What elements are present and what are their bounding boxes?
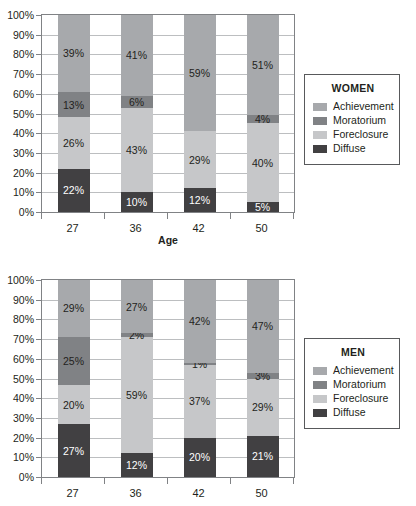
x-axis-tick-label: 50 xyxy=(232,487,292,499)
legend-item-moratorium[interactable]: Moratorium xyxy=(313,378,393,391)
stacked-bar[interactable]: 20%37%1%42% xyxy=(184,280,216,477)
swatch-moratorium-icon xyxy=(313,381,327,389)
y-axis-tick-label: 50% xyxy=(0,374,34,384)
bar-segment-value-label: 41% xyxy=(121,50,153,61)
bar-segment-value-label: 51% xyxy=(247,60,279,71)
bar-segment-diffuse[interactable]: 12% xyxy=(184,188,216,212)
bar-segment-foreclosure[interactable]: 40% xyxy=(247,123,279,202)
legend-item-foreclosure[interactable]: Foreclosure xyxy=(313,392,393,405)
x-axis-title: Age xyxy=(41,234,295,246)
bar-segment-value-label: 10% xyxy=(121,197,153,208)
bar-segment-foreclosure[interactable]: 37% xyxy=(184,365,216,438)
x-axis-tick xyxy=(104,213,105,219)
bar-segment-achievement[interactable]: 39% xyxy=(58,15,90,92)
legend-label-moratorium: Moratorium xyxy=(333,378,386,391)
y-axis-tick-label: 90% xyxy=(0,30,34,40)
x-axis-tick xyxy=(41,213,42,219)
x-axis-tick-label: 42 xyxy=(169,487,229,499)
x-axis-tick-label: 27 xyxy=(43,222,103,234)
bar-segment-achievement[interactable]: 47% xyxy=(247,280,279,373)
swatch-foreclosure-icon xyxy=(313,131,327,139)
y-axis-tick-label: 100% xyxy=(0,10,34,20)
bar-segment-diffuse[interactable]: 20% xyxy=(184,438,216,477)
bar-segment-moratorium[interactable]: 4% xyxy=(247,115,279,123)
y-axis-tick-label: 0% xyxy=(0,472,34,482)
y-axis-tick-label: 20% xyxy=(0,168,34,178)
bar-segment-diffuse[interactable]: 5% xyxy=(247,202,279,212)
bar-segment-value-label: 59% xyxy=(121,390,153,401)
stacked-bar[interactable]: 12%29%59% xyxy=(184,15,216,212)
legend-item-achievement[interactable]: Achievement xyxy=(313,100,393,113)
bar-segment-value-label: 5% xyxy=(247,202,279,213)
x-axis-tick xyxy=(293,478,294,484)
legend-item-foreclosure[interactable]: Foreclosure xyxy=(313,128,393,141)
stacked-bar[interactable]: 10%43%6%41% xyxy=(121,15,153,212)
bar-segment-value-label: 20% xyxy=(184,452,216,463)
x-axis-tick xyxy=(104,478,105,484)
y-axis-tick-label: 40% xyxy=(0,128,34,138)
bar-segment-moratorium[interactable]: 13% xyxy=(58,92,90,118)
stacked-bar[interactable]: 27%20%25%29% xyxy=(58,280,90,477)
legend-item-moratorium[interactable]: Moratorium xyxy=(313,114,393,127)
y-axis-tick-label: 10% xyxy=(0,187,34,197)
legend-label-diffuse: Diffuse xyxy=(333,142,366,155)
stacked-bar[interactable]: 22%26%13%39% xyxy=(58,15,90,212)
bar-segment-foreclosure[interactable]: 43% xyxy=(121,108,153,193)
swatch-moratorium-icon xyxy=(313,117,327,125)
bar-segment-diffuse[interactable]: 21% xyxy=(247,436,279,477)
legend-item-diffuse[interactable]: Diffuse xyxy=(313,142,393,155)
bar-segment-achievement[interactable]: 59% xyxy=(184,15,216,131)
bar-segment-diffuse[interactable]: 22% xyxy=(58,169,90,212)
bar-segment-foreclosure[interactable]: 20% xyxy=(58,385,90,424)
y-axis-tick-label: 60% xyxy=(0,354,34,364)
bar-segment-achievement[interactable]: 29% xyxy=(58,280,90,337)
bar-segment-value-label: 26% xyxy=(58,138,90,149)
bar-segment-value-label: 39% xyxy=(58,48,90,59)
y-axis-tick-label: 30% xyxy=(0,148,34,158)
bar-segment-moratorium[interactable]: 2% xyxy=(121,333,153,337)
x-axis-tick xyxy=(167,213,168,219)
bar-segment-diffuse[interactable]: 10% xyxy=(121,192,153,212)
bar-segment-moratorium[interactable]: 1% xyxy=(184,363,216,365)
bar-segment-diffuse[interactable]: 27% xyxy=(58,424,90,477)
stacked-bar[interactable]: 5%40%4%51% xyxy=(247,15,279,212)
bar-segment-achievement[interactable]: 42% xyxy=(184,280,216,363)
y-axis-tick-label: 90% xyxy=(0,295,34,305)
men-legend-title: MEN xyxy=(313,346,393,358)
bar-segment-value-label: 37% xyxy=(184,396,216,407)
bar-segment-foreclosure[interactable]: 29% xyxy=(247,379,279,436)
bar-segment-moratorium[interactable]: 6% xyxy=(121,96,153,108)
bar-segment-value-label: 40% xyxy=(247,157,279,168)
bar-segment-foreclosure[interactable]: 59% xyxy=(121,337,153,453)
bar-segment-diffuse[interactable]: 12% xyxy=(121,453,153,477)
bar-segment-achievement[interactable]: 27% xyxy=(121,280,153,333)
x-axis-tick xyxy=(230,213,231,219)
swatch-achievement-icon xyxy=(313,103,327,111)
stacked-bar[interactable]: 21%29%3%47% xyxy=(247,280,279,477)
y-axis-tick-label: 30% xyxy=(0,413,34,423)
bar-segment-value-label: 25% xyxy=(58,355,90,366)
bar-segment-achievement[interactable]: 51% xyxy=(247,15,279,115)
bar-segment-achievement[interactable]: 41% xyxy=(121,15,153,96)
x-axis-tick-label: 36 xyxy=(106,487,166,499)
x-axis-tick-label: 36 xyxy=(106,222,166,234)
legend-item-diffuse[interactable]: Diffuse xyxy=(313,406,393,419)
bar-segment-value-label: 12% xyxy=(121,460,153,471)
bar-segment-value-label: 21% xyxy=(247,451,279,462)
bar-segment-value-label: 27% xyxy=(121,301,153,312)
bar-segment-value-label: 12% xyxy=(184,195,216,206)
bar-segment-value-label: 29% xyxy=(247,402,279,413)
bar-segment-moratorium[interactable]: 25% xyxy=(58,337,90,386)
men-chart: 100%90%80%70%60%50%40%30%20%10%0% 27%20%… xyxy=(0,265,416,506)
legend-item-achievement[interactable]: Achievement xyxy=(313,364,393,377)
bar-segment-foreclosure[interactable]: 29% xyxy=(184,131,216,188)
bar-segment-moratorium[interactable]: 3% xyxy=(247,373,279,379)
legend-label-achievement: Achievement xyxy=(333,100,394,113)
y-axis-tick-label: 10% xyxy=(0,452,34,462)
x-axis-tick-label: 50 xyxy=(232,222,292,234)
women-y-axis: 100%90%80%70%60%50%40%30%20%10%0% xyxy=(0,14,34,213)
bar-segment-foreclosure[interactable]: 26% xyxy=(58,117,90,168)
stacked-bar[interactable]: 12%59%2%27% xyxy=(121,280,153,477)
y-axis-tick-label: 100% xyxy=(0,275,34,285)
bar-segment-value-label: 22% xyxy=(58,185,90,196)
